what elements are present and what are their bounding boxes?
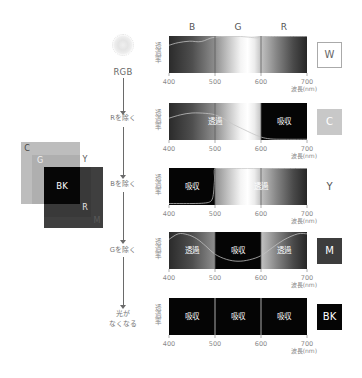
transmittance-plot-black: 400500600700吸収吸収吸収波長(nm) (159, 298, 329, 358)
subtractive-color-diagram: C G Y BK R M RGB Rを除く Bを除く Gを除く 光が なくなる … (0, 0, 362, 378)
x-tick-label: 500 (209, 274, 221, 282)
x-tick-label: 600 (255, 78, 267, 86)
x-tick-label: 400 (163, 210, 175, 218)
magenta-label: M (87, 216, 107, 226)
transmittance-plot-white: 400500600700波長(nm) (159, 36, 329, 96)
green-label: G (30, 156, 50, 166)
x-tick-label: 400 (163, 340, 175, 348)
absorption-label: 吸収 (277, 312, 292, 321)
absorption-label: 吸収 (231, 312, 246, 321)
cyan-label: C (17, 144, 37, 154)
x-tick-label: 500 (209, 340, 221, 348)
panel-white: 透過率 400500600700波長(nm) W (0, 36, 362, 73)
x-axis-label: 波長(nm) (291, 217, 317, 225)
x-axis-label: 波長(nm) (291, 347, 317, 355)
panel-cyan: 透過率 400500600700透過吸収波長(nm) C (0, 103, 362, 140)
transmission-label: 透過 (185, 245, 200, 255)
transmittance-plot-cyan: 400500600700透過吸収波長(nm) (159, 103, 329, 163)
absorption-label: 吸収 (277, 117, 292, 126)
panel-yellow: 透過率 400500600700吸収透過波長(nm) Y (0, 168, 362, 205)
x-tick-label: 600 (255, 340, 267, 348)
transmission-label: 透過 (277, 245, 292, 255)
panel-black: 透過率 400500600700吸収吸収吸収波長(nm) BK (0, 298, 362, 335)
x-tick-label: 400 (163, 145, 175, 153)
transmittance-plot-magenta: 400500600700透過吸収透過波長(nm) (159, 232, 329, 292)
absorption-label: 吸収 (185, 182, 200, 191)
ink-box-black: BK (317, 304, 342, 330)
x-tick-label: 400 (163, 274, 175, 282)
x-tick-label: 500 (209, 210, 221, 218)
ink-box-white: W (317, 42, 342, 68)
x-tick-label: 400 (163, 78, 175, 86)
absorption-label: 吸収 (185, 312, 200, 321)
x-axis-label: 波長(nm) (291, 281, 317, 289)
x-tick-label: 600 (255, 145, 267, 153)
panel-magenta: 透過率 400500600700透過吸収透過波長(nm) M (0, 232, 362, 269)
ink-box-cyan: C (317, 109, 342, 135)
x-tick-label: 600 (255, 274, 267, 282)
x-axis-label: 波長(nm) (291, 152, 317, 160)
yellow-label: Y (75, 155, 95, 165)
x-axis-label: 波長(nm) (291, 85, 317, 93)
x-tick-label: 600 (255, 210, 267, 218)
ink-box-magenta: M (317, 238, 342, 264)
transmission-label: 透過 (254, 181, 269, 191)
transmittance-plot-yellow: 400500600700吸収透過波長(nm) (159, 168, 329, 228)
transmission-label: 透過 (208, 116, 223, 126)
band-label-b: B (182, 22, 202, 32)
ink-box-yellow: Y (317, 174, 342, 200)
x-tick-label: 500 (209, 145, 221, 153)
x-tick-label: 500 (209, 78, 221, 86)
band-label-r: R (274, 22, 294, 32)
band-label-g: G (228, 22, 248, 32)
absorption-label: 吸収 (231, 246, 246, 255)
